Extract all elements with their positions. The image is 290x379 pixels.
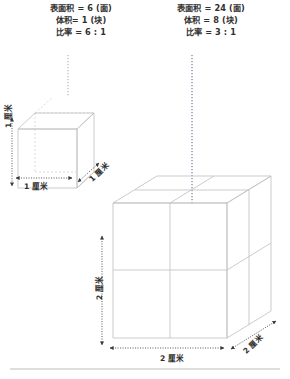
small-cube-height-label: 1 厘米 (2, 104, 13, 128)
figure-canvas: 表面积 = 6 (面) 体积= 1 (块) 比率 = 6 : 1 表面积 = 2… (0, 0, 290, 379)
large-cube-width-text: 2 厘米 (160, 354, 184, 363)
large-cube-height-text: 2 厘米 (95, 276, 104, 300)
small-cube-top-face (18, 113, 94, 129)
large-cube-width-label: 2 厘米 (160, 352, 184, 363)
large-cube-height-label: 2 厘米 (93, 276, 104, 300)
small-cube (18, 98, 94, 188)
small-cube-width-label: 1 厘米 (24, 180, 48, 191)
small-cube-height-text: 1 厘米 (4, 104, 13, 128)
large-cube (113, 176, 271, 338)
large-cube-top-divider-v (170, 176, 214, 203)
small-cube-hidden-edges (35, 98, 94, 172)
small-cube-width-text: 1 厘米 (24, 182, 48, 191)
